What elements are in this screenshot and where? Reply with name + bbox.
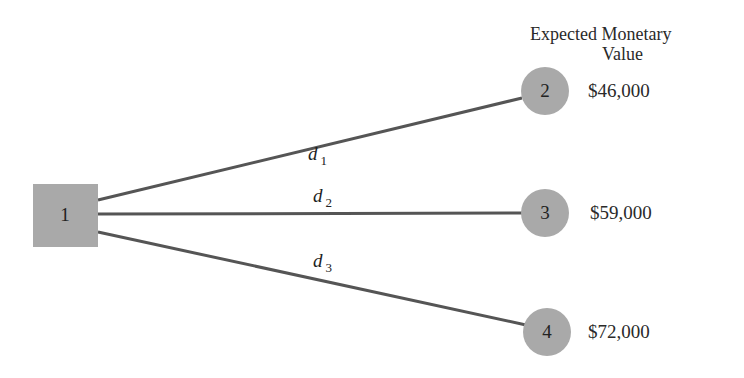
branch-line-d2 <box>98 213 522 214</box>
header-line-1: Expected Monetary <box>530 24 671 45</box>
header-line-2: Value <box>602 44 643 65</box>
emv-value-4: $72,000 <box>588 321 650 343</box>
branch-line-d3 <box>98 232 526 325</box>
decision-node-label: 1 <box>60 204 70 225</box>
branch-label-d3: d3 <box>313 250 332 275</box>
outcome-node-4-label: 4 <box>542 321 552 342</box>
outcome-node-2-label: 2 <box>540 80 550 101</box>
outcome-node-3-label: 3 <box>540 202 550 223</box>
branch-label-d2: d2 <box>313 185 332 210</box>
emv-value-2: $46,000 <box>588 80 650 102</box>
emv-value-3: $59,000 <box>590 202 652 224</box>
